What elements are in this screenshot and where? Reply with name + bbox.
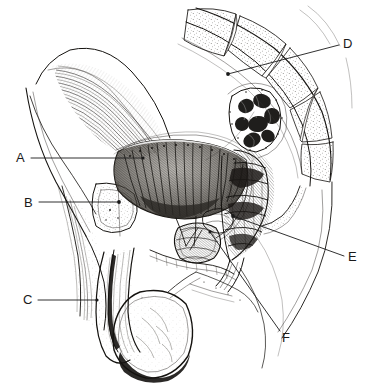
leader-dot-c [95,298,98,301]
label-c: C [23,292,33,307]
leader-dot-d [226,72,230,76]
label-e: E [348,249,357,264]
label-d: D [343,36,353,51]
label-b: B [24,195,33,210]
leader-dot-a [141,156,144,159]
label-a: A [16,150,25,165]
sagittal-pelvis-illustration: A B C D E F [0,0,370,391]
leader-dot-b [117,200,121,204]
leader-dot-e [231,214,235,218]
anatomical-figure: A B C D E F [0,0,370,391]
label-f: F [282,330,290,345]
leader-dot-f [208,230,211,233]
